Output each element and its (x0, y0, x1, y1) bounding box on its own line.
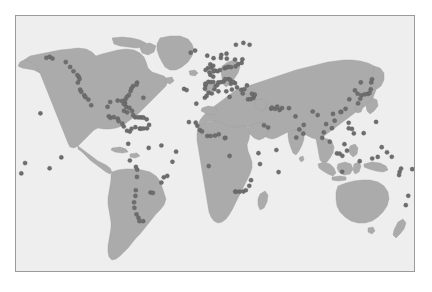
map-point (276, 170, 280, 174)
map-point (213, 133, 217, 137)
map-point (385, 150, 389, 154)
figure-container (0, 0, 432, 292)
map-point (333, 119, 337, 123)
map-point (223, 136, 227, 140)
map-point (147, 123, 151, 127)
map-point (189, 51, 193, 55)
map-point (134, 188, 138, 192)
map-point (224, 52, 228, 56)
map-point (227, 95, 231, 99)
map-point (258, 162, 262, 166)
map-point (233, 57, 237, 61)
map-point (362, 131, 366, 135)
map-point (256, 151, 260, 155)
map-point (404, 203, 408, 207)
map-point (133, 194, 137, 198)
map-point (50, 56, 54, 60)
map-point (245, 83, 249, 87)
map-point (297, 127, 301, 131)
map-point (120, 99, 124, 103)
map-point (211, 64, 215, 68)
map-point (194, 102, 198, 106)
map-point (141, 96, 145, 100)
map-point (71, 69, 75, 73)
map-point (293, 114, 297, 118)
map-point (159, 143, 163, 147)
map-point (301, 132, 305, 136)
map-point (331, 112, 335, 116)
map-point (347, 121, 351, 125)
map-point (342, 142, 346, 146)
map-point (241, 91, 245, 95)
map-point (219, 53, 223, 57)
map-point (108, 100, 112, 104)
map-point (135, 168, 139, 172)
map-point (204, 68, 208, 72)
map-point (125, 110, 129, 114)
map-point (59, 155, 63, 159)
map-point (328, 140, 332, 144)
map-point (205, 54, 209, 58)
map-point (322, 130, 326, 134)
map-point (302, 123, 306, 127)
map-point (211, 80, 215, 84)
map-point (184, 88, 188, 92)
map-point (126, 142, 130, 146)
map-point (224, 89, 228, 93)
map-point (89, 103, 93, 107)
map-point (287, 106, 291, 110)
map-point (330, 126, 334, 130)
map-point (343, 107, 347, 111)
map-point (170, 160, 174, 164)
map-point (135, 175, 139, 179)
map-point (248, 43, 252, 47)
map-frame (15, 15, 415, 272)
map-point (38, 111, 42, 115)
map-point (19, 171, 23, 175)
map-point (311, 109, 315, 113)
map-point (86, 97, 90, 101)
map-point (266, 125, 270, 129)
map-point (64, 60, 68, 64)
map-point (229, 65, 233, 69)
map-point (193, 48, 197, 52)
map-point (350, 127, 354, 131)
map-point (240, 57, 244, 61)
map-point (227, 154, 231, 158)
map-point (116, 98, 120, 102)
map-point (128, 89, 132, 93)
map-point (132, 200, 136, 204)
map-point (128, 158, 132, 162)
map-point (210, 91, 214, 95)
map-point (200, 129, 204, 133)
map-point (390, 155, 394, 159)
map-point (217, 132, 221, 136)
map-point (211, 75, 215, 79)
map-point (241, 41, 245, 45)
map-point (247, 184, 251, 188)
map-point (345, 149, 349, 153)
map-point (249, 178, 253, 182)
map-point (280, 106, 284, 110)
map-point (410, 167, 414, 171)
map-point (207, 164, 211, 168)
map-point (242, 87, 246, 91)
map-point (376, 155, 380, 159)
map-point (117, 119, 121, 123)
map-point (112, 115, 116, 119)
map-point (211, 56, 215, 60)
map-point (133, 125, 137, 129)
land-java (332, 176, 346, 181)
map-point (130, 109, 134, 113)
map-point (320, 136, 324, 140)
map-point (141, 219, 145, 223)
map-point (159, 181, 163, 185)
map-point (370, 77, 374, 81)
map-point (340, 154, 344, 158)
map-point (374, 120, 378, 124)
map-point (76, 80, 80, 84)
map-point (250, 92, 254, 96)
map-point (347, 97, 351, 101)
map-point (174, 150, 178, 154)
map-point (68, 65, 72, 69)
